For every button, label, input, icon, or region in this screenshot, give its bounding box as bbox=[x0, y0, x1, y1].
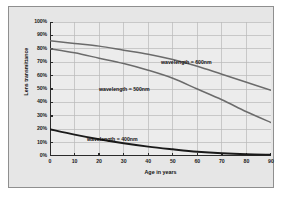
y-tick-label: 90% bbox=[13, 33, 47, 38]
y-tick-label: 50% bbox=[13, 86, 47, 91]
y-tick-label: 60% bbox=[13, 73, 47, 78]
y-tick-label: 10% bbox=[13, 140, 47, 145]
x-axis-title: Age in years bbox=[50, 170, 271, 175]
y-tick-label: 30% bbox=[13, 113, 47, 118]
y-tick-label: 20% bbox=[13, 127, 47, 132]
series-annotation-600nm: wavelength = 600nm bbox=[161, 60, 212, 65]
x-tick-label: 50 bbox=[162, 159, 184, 164]
x-tick-label: 0 bbox=[39, 159, 61, 164]
y-tick-label: 40% bbox=[13, 100, 47, 105]
x-tick-label: 20 bbox=[88, 159, 110, 164]
y-tick-label: 80% bbox=[13, 46, 47, 51]
series-annotation-500nm: wavelength = 500nm bbox=[99, 87, 150, 92]
series-line bbox=[50, 129, 271, 154]
series-lines bbox=[50, 22, 271, 156]
chart-figure: 0%10%20%30%40%50%60%70%80%90%100% 010203… bbox=[0, 0, 282, 200]
chart-canvas-panel: 0%10%20%30%40%50%60%70%80%90%100% 010203… bbox=[8, 6, 274, 188]
y-tick-label: 70% bbox=[13, 60, 47, 65]
x-tick-label: 30 bbox=[113, 159, 135, 164]
y-tick-label: 100% bbox=[13, 19, 47, 24]
x-tick-label: 40 bbox=[137, 159, 159, 164]
y-tick-label: 0% bbox=[13, 153, 47, 158]
x-tick-label: 90 bbox=[260, 159, 282, 164]
series-annotation-400nm: wavelength = 400nm bbox=[87, 137, 138, 142]
series-line bbox=[50, 41, 271, 91]
x-tick-label: 60 bbox=[186, 159, 208, 164]
y-axis-title: Lens transmittance bbox=[24, 24, 29, 120]
plot-area bbox=[50, 22, 271, 156]
x-tick-label: 70 bbox=[211, 159, 233, 164]
x-tick-label: 10 bbox=[64, 159, 86, 164]
x-tick-label: 80 bbox=[235, 159, 257, 164]
